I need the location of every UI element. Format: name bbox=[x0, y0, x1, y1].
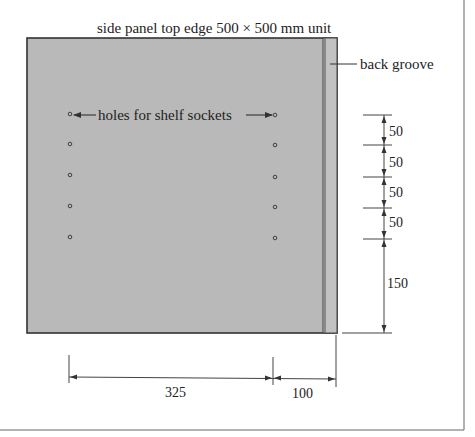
vdim-3: 50 bbox=[389, 185, 403, 200]
vdim-5: 150 bbox=[387, 276, 408, 291]
vdim-4: 50 bbox=[389, 215, 403, 230]
side-panel bbox=[27, 38, 337, 333]
diagram-title: side panel top edge 500 × 500 mm unit bbox=[97, 20, 332, 36]
hdim-2: 100 bbox=[292, 386, 313, 401]
side-panel-diagram: side panel top edge 500 × 500 mm unit ba… bbox=[0, 0, 475, 437]
vdim-1: 50 bbox=[389, 124, 403, 139]
vdim-2: 50 bbox=[389, 155, 403, 170]
hdim-1: 325 bbox=[165, 385, 186, 400]
horizontal-dimension-chain bbox=[69, 335, 336, 387]
back-groove-label: back groove bbox=[360, 56, 434, 72]
holes-label: holes for shelf sockets bbox=[98, 107, 232, 123]
